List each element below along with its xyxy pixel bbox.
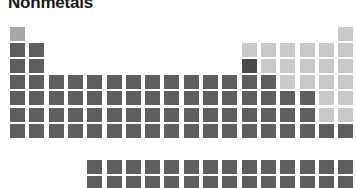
element-cell <box>107 176 122 188</box>
element-cell <box>222 176 237 188</box>
element-cell <box>222 160 237 174</box>
element-cell <box>87 176 102 188</box>
element-cell <box>49 124 64 138</box>
element-cell <box>87 91 102 105</box>
element-cell <box>87 108 102 122</box>
element-cell <box>68 124 83 138</box>
element-cell <box>145 124 160 138</box>
element-cell <box>338 75 353 89</box>
element-cell <box>319 59 334 73</box>
element-cell <box>338 59 353 73</box>
element-cell <box>280 160 295 174</box>
element-cell <box>164 91 179 105</box>
element-cell <box>145 108 160 122</box>
element-cell <box>203 176 218 188</box>
element-cell <box>203 91 218 105</box>
element-cell <box>203 108 218 122</box>
element-cell <box>261 176 276 188</box>
element-cell <box>242 108 257 122</box>
element-cell <box>300 75 315 89</box>
element-cell <box>338 108 353 122</box>
element-cell <box>107 160 122 174</box>
element-cell <box>261 160 276 174</box>
element-cell <box>300 91 315 105</box>
element-cell <box>126 75 141 89</box>
element-cell <box>222 75 237 89</box>
element-cell <box>184 160 199 174</box>
element-cell <box>164 176 179 188</box>
element-cell <box>10 108 25 122</box>
element-cell <box>68 91 83 105</box>
element-cell <box>87 160 102 174</box>
element-cell <box>87 75 102 89</box>
element-cell <box>222 108 237 122</box>
element-cell <box>107 108 122 122</box>
element-cell <box>261 59 276 73</box>
element-cell <box>184 108 199 122</box>
element-cell <box>184 91 199 105</box>
element-cell <box>145 75 160 89</box>
element-cell <box>242 91 257 105</box>
element-cell <box>164 75 179 89</box>
periodic-table-grid <box>0 0 356 188</box>
element-cell <box>280 75 295 89</box>
element-cell <box>29 59 44 73</box>
element-cell <box>203 124 218 138</box>
periodic-table-figure: Nonmetals <box>0 0 356 188</box>
element-cell <box>203 75 218 89</box>
element-cell <box>242 124 257 138</box>
element-cell <box>68 108 83 122</box>
element-cell <box>10 124 25 138</box>
element-cell <box>242 75 257 89</box>
element-cell <box>242 160 257 174</box>
element-cell <box>222 124 237 138</box>
element-cell <box>319 91 334 105</box>
element-cell <box>319 75 334 89</box>
element-cell <box>145 91 160 105</box>
element-cell <box>261 124 276 138</box>
element-cell <box>222 91 237 105</box>
element-cell <box>261 108 276 122</box>
element-cell <box>203 160 218 174</box>
element-cell <box>145 176 160 188</box>
element-cell <box>10 91 25 105</box>
element-cell <box>126 160 141 174</box>
element-cell <box>107 75 122 89</box>
element-cell <box>319 160 334 174</box>
element-cell <box>10 43 25 57</box>
element-cell <box>29 108 44 122</box>
element-cell <box>107 91 122 105</box>
element-cell <box>319 124 334 138</box>
element-cell <box>261 75 276 89</box>
element-cell <box>261 43 276 57</box>
element-cell <box>107 124 122 138</box>
element-cell <box>87 124 102 138</box>
element-cell <box>145 160 160 174</box>
element-cell <box>126 176 141 188</box>
element-cell <box>338 176 353 188</box>
element-cell <box>126 108 141 122</box>
element-cell <box>164 160 179 174</box>
element-cell <box>29 75 44 89</box>
element-cell <box>300 124 315 138</box>
element-cell <box>338 27 353 41</box>
element-cell <box>319 108 334 122</box>
element-cell <box>338 43 353 57</box>
element-cell <box>280 124 295 138</box>
element-cell <box>280 91 295 105</box>
element-cell <box>126 91 141 105</box>
element-cell <box>280 43 295 57</box>
element-cell <box>49 91 64 105</box>
element-cell <box>49 108 64 122</box>
element-cell <box>280 108 295 122</box>
element-cell <box>338 160 353 174</box>
element-cell <box>300 59 315 73</box>
element-cell <box>338 124 353 138</box>
element-cell <box>242 176 257 188</box>
element-cell <box>126 124 141 138</box>
element-cell <box>300 160 315 174</box>
element-cell <box>184 176 199 188</box>
element-cell <box>242 59 257 73</box>
element-cell <box>184 124 199 138</box>
element-cell <box>242 43 257 57</box>
